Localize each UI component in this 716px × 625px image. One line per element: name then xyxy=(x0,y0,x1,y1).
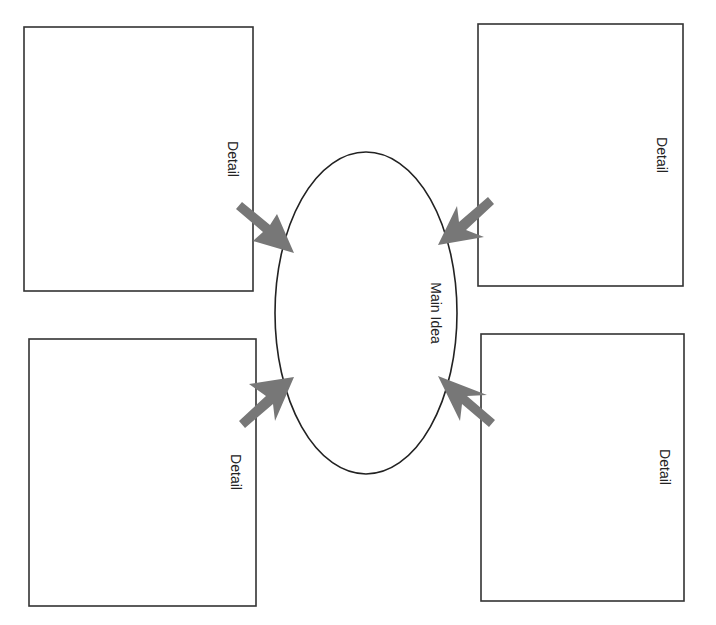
detail-box-top-right: Detail xyxy=(478,24,683,286)
detail-box-bottom-right: Detail xyxy=(481,334,684,601)
detail-box-bottom-left: Detail xyxy=(29,339,256,606)
detail-box-top-left: Detail xyxy=(24,27,253,291)
detail-label: Detail xyxy=(657,449,673,485)
main-idea-label: Main Idea xyxy=(428,282,444,344)
detail-label: Detail xyxy=(228,454,244,490)
detail-label: Detail xyxy=(225,141,241,177)
detail-label: Detail xyxy=(654,137,670,173)
main-idea-ellipse: Main Idea xyxy=(275,152,457,474)
main-idea-diagram: Detail Detail Detail Detail Main Idea xyxy=(0,0,716,625)
